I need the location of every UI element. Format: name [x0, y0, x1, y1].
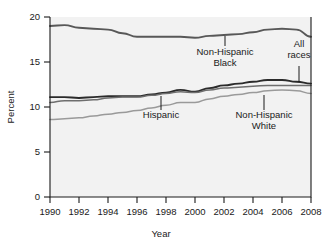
chart-figure: 05101520 1990199219941996199820002002200… [0, 0, 330, 244]
plot-background [50, 17, 311, 197]
line-chart: 05101520 1990199219941996199820002002200… [0, 0, 330, 244]
x-tick-label: 2006 [271, 206, 292, 217]
annotation-line: Non-Hispanic [235, 109, 292, 120]
x-tick-label: 1994 [97, 206, 118, 217]
annotation-line: Black [213, 57, 236, 68]
annotation-label-hispanic: Hispanic [143, 109, 180, 120]
x-tick-label: 1998 [155, 206, 176, 217]
y-tick-label: 10 [29, 101, 40, 112]
x-tick-label: 2000 [184, 206, 205, 217]
x-axis-title: Year [151, 228, 170, 239]
x-tick-label: 2008 [300, 206, 321, 217]
annotation-line: All [294, 38, 305, 49]
y-tick-label: 20 [29, 11, 40, 22]
y-tick-label: 0 [35, 191, 40, 202]
annotation-line: White [252, 120, 276, 131]
x-tick-label: 2002 [213, 206, 234, 217]
y-tick-label: 5 [35, 146, 40, 157]
y-axis-title: Percent [5, 90, 16, 123]
x-tick-label: 2004 [242, 206, 263, 217]
annotation-line: Non-Hispanic [196, 46, 253, 57]
annotation-line: Hispanic [143, 109, 180, 120]
annotation-line: races [287, 49, 310, 60]
y-tick-label: 15 [29, 56, 40, 67]
x-tick-label: 1992 [68, 206, 89, 217]
x-tick-label: 1996 [126, 206, 147, 217]
x-tick-label: 1990 [39, 206, 60, 217]
